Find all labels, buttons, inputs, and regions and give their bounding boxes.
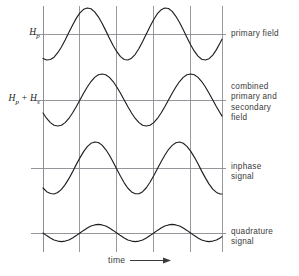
legend-primary-field: primary field (231, 29, 297, 39)
time-axis-label: time (108, 255, 172, 265)
waveform-figure: Hp Hp + Hs primary field combined primar… (0, 0, 299, 276)
legend-inphase-signal: inphase signal (231, 162, 297, 183)
time-axis-text: time (108, 255, 125, 265)
combined-field-axis-label: Hp + Hs (0, 93, 40, 106)
legend-quadrature-signal: quadrature signal (231, 227, 297, 248)
legend-combined-field: combined primary and secondary field (231, 82, 297, 124)
right-arrow-icon (130, 256, 172, 265)
primary-field-axis-label: Hp (4, 27, 40, 40)
